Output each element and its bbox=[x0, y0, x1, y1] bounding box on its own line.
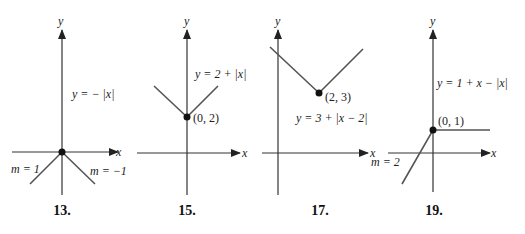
slope-label-right: m = −1 bbox=[90, 165, 127, 177]
equation-label: y = 1 + x − |x| bbox=[437, 77, 508, 89]
x-axis-label: x bbox=[242, 147, 247, 159]
y-axis-label: y bbox=[184, 15, 189, 27]
panel-19-graph bbox=[388, 30, 490, 192]
vertex-point bbox=[59, 149, 66, 156]
y-axis-label: y bbox=[430, 15, 435, 27]
curve bbox=[270, 47, 363, 93]
equation-label: y = 3 + |x − 2| bbox=[296, 112, 368, 124]
point-label: (0, 2) bbox=[193, 112, 219, 124]
equation-label: y = 2 + |x| bbox=[195, 68, 246, 80]
y-axis-label: y bbox=[275, 15, 280, 27]
vertex-point bbox=[316, 90, 323, 97]
figure-number: 17. bbox=[311, 203, 329, 219]
slope-label-left: m = 1 bbox=[11, 163, 40, 175]
x-axis-label: x bbox=[491, 147, 496, 159]
figure-number: 19. bbox=[425, 203, 443, 219]
figure-number: 15. bbox=[178, 203, 196, 219]
slope-label: m = 2 bbox=[371, 156, 400, 168]
corner-point bbox=[430, 127, 437, 134]
point-label: (2, 3) bbox=[325, 91, 351, 103]
x-axis-label: x bbox=[116, 146, 121, 158]
vertex-point bbox=[184, 114, 191, 121]
curve bbox=[402, 130, 490, 184]
panel-15-graph bbox=[137, 30, 240, 195]
figure-number: 13. bbox=[53, 203, 71, 219]
figure-absolute-value-graphs: y x y = − |x| m = 1 m = −1 13. y x y = 2… bbox=[0, 0, 525, 234]
point-label: (0, 1) bbox=[438, 115, 464, 127]
y-axis-label: y bbox=[58, 15, 63, 27]
equation-label: y = − |x| bbox=[72, 88, 114, 100]
